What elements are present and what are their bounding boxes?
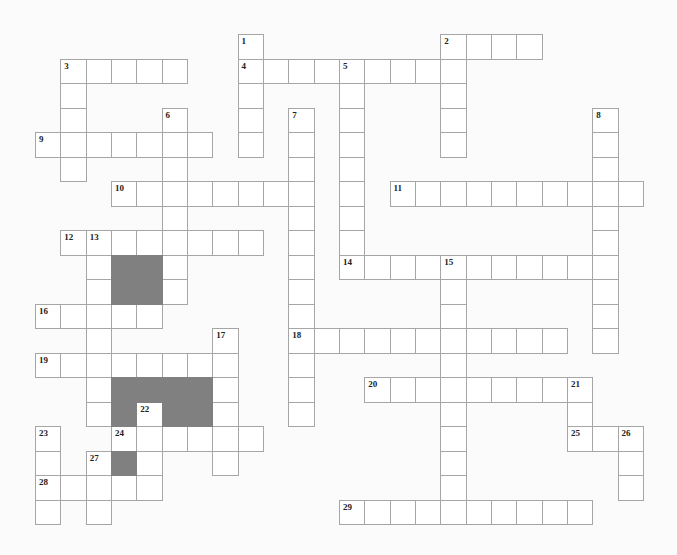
answer-cell[interactable] bbox=[288, 255, 314, 281]
answer-cell[interactable] bbox=[162, 157, 188, 183]
answer-cell[interactable] bbox=[136, 230, 162, 256]
answer-cell[interactable] bbox=[415, 377, 441, 403]
answer-cell[interactable] bbox=[288, 181, 314, 207]
answer-cell[interactable] bbox=[440, 304, 466, 330]
answer-cell[interactable] bbox=[288, 132, 314, 158]
answer-cell[interactable] bbox=[212, 353, 238, 379]
answer-cell[interactable]: 14 bbox=[339, 255, 365, 281]
answer-cell[interactable] bbox=[136, 132, 162, 158]
answer-cell[interactable] bbox=[466, 181, 492, 207]
answer-cell[interactable] bbox=[440, 377, 466, 403]
answer-cell[interactable] bbox=[212, 181, 238, 207]
answer-cell[interactable]: 4 bbox=[238, 59, 264, 85]
answer-cell[interactable] bbox=[60, 132, 86, 158]
answer-cell[interactable] bbox=[339, 83, 365, 109]
answer-cell[interactable] bbox=[466, 500, 492, 526]
answer-cell[interactable]: 6 bbox=[162, 108, 188, 134]
answer-cell[interactable] bbox=[60, 475, 86, 501]
answer-cell[interactable] bbox=[516, 181, 542, 207]
answer-cell[interactable] bbox=[187, 132, 213, 158]
answer-cell[interactable] bbox=[339, 230, 365, 256]
answer-cell[interactable] bbox=[86, 255, 112, 281]
answer-cell[interactable] bbox=[440, 59, 466, 85]
answer-cell[interactable]: 23 bbox=[35, 426, 61, 452]
answer-cell[interactable] bbox=[440, 108, 466, 134]
answer-cell[interactable] bbox=[390, 377, 416, 403]
answer-cell[interactable] bbox=[288, 353, 314, 379]
answer-cell[interactable] bbox=[212, 402, 238, 428]
answer-cell[interactable]: 11 bbox=[390, 181, 416, 207]
answer-cell[interactable] bbox=[86, 377, 112, 403]
answer-cell[interactable] bbox=[466, 255, 492, 281]
answer-cell[interactable] bbox=[86, 353, 112, 379]
answer-cell[interactable] bbox=[86, 279, 112, 305]
answer-cell[interactable] bbox=[339, 328, 365, 354]
answer-cell[interactable] bbox=[60, 108, 86, 134]
answer-cell[interactable] bbox=[364, 59, 390, 85]
answer-cell[interactable] bbox=[111, 132, 137, 158]
answer-cell[interactable] bbox=[60, 304, 86, 330]
answer-cell[interactable] bbox=[364, 328, 390, 354]
answer-cell[interactable]: 20 bbox=[364, 377, 390, 403]
answer-cell[interactable] bbox=[567, 402, 593, 428]
answer-cell[interactable] bbox=[288, 230, 314, 256]
answer-cell[interactable] bbox=[162, 230, 188, 256]
answer-cell[interactable] bbox=[491, 328, 517, 354]
answer-cell[interactable] bbox=[618, 475, 644, 501]
answer-cell[interactable] bbox=[288, 377, 314, 403]
answer-cell[interactable] bbox=[86, 402, 112, 428]
answer-cell[interactable] bbox=[86, 304, 112, 330]
answer-cell[interactable] bbox=[111, 304, 137, 330]
answer-cell[interactable] bbox=[212, 451, 238, 477]
answer-cell[interactable] bbox=[618, 181, 644, 207]
answer-cell[interactable] bbox=[415, 181, 441, 207]
answer-cell[interactable] bbox=[516, 328, 542, 354]
answer-cell[interactable]: 12 bbox=[60, 230, 86, 256]
answer-cell[interactable]: 18 bbox=[288, 328, 314, 354]
answer-cell[interactable] bbox=[288, 59, 314, 85]
answer-cell[interactable]: 16 bbox=[35, 304, 61, 330]
answer-cell[interactable] bbox=[440, 402, 466, 428]
answer-cell[interactable]: 24 bbox=[111, 426, 137, 452]
answer-cell[interactable] bbox=[466, 377, 492, 403]
answer-cell[interactable] bbox=[516, 255, 542, 281]
answer-cell[interactable] bbox=[60, 83, 86, 109]
answer-cell[interactable] bbox=[567, 500, 593, 526]
answer-cell[interactable]: 25 bbox=[567, 426, 593, 452]
answer-cell[interactable] bbox=[86, 475, 112, 501]
answer-cell[interactable] bbox=[35, 500, 61, 526]
answer-cell[interactable]: 1 bbox=[238, 34, 264, 60]
answer-cell[interactable] bbox=[35, 451, 61, 477]
answer-cell[interactable] bbox=[592, 255, 618, 281]
answer-cell[interactable] bbox=[288, 157, 314, 183]
answer-cell[interactable]: 5 bbox=[339, 59, 365, 85]
answer-cell[interactable] bbox=[136, 451, 162, 477]
answer-cell[interactable] bbox=[542, 255, 568, 281]
answer-cell[interactable] bbox=[415, 500, 441, 526]
answer-cell[interactable] bbox=[238, 230, 264, 256]
answer-cell[interactable] bbox=[364, 500, 390, 526]
answer-cell[interactable] bbox=[516, 377, 542, 403]
answer-cell[interactable] bbox=[440, 500, 466, 526]
answer-cell[interactable] bbox=[162, 59, 188, 85]
answer-cell[interactable]: 29 bbox=[339, 500, 365, 526]
answer-cell[interactable] bbox=[339, 157, 365, 183]
answer-cell[interactable]: 26 bbox=[618, 426, 644, 452]
answer-cell[interactable] bbox=[136, 304, 162, 330]
answer-cell[interactable] bbox=[136, 426, 162, 452]
answer-cell[interactable] bbox=[162, 132, 188, 158]
answer-cell[interactable] bbox=[440, 328, 466, 354]
answer-cell[interactable] bbox=[60, 157, 86, 183]
answer-cell[interactable] bbox=[162, 426, 188, 452]
answer-cell[interactable] bbox=[339, 181, 365, 207]
answer-cell[interactable] bbox=[592, 206, 618, 232]
answer-cell[interactable] bbox=[364, 255, 390, 281]
answer-cell[interactable] bbox=[542, 328, 568, 354]
answer-cell[interactable] bbox=[187, 230, 213, 256]
answer-cell[interactable] bbox=[491, 377, 517, 403]
answer-cell[interactable] bbox=[592, 426, 618, 452]
answer-cell[interactable] bbox=[288, 402, 314, 428]
answer-cell[interactable] bbox=[212, 377, 238, 403]
answer-cell[interactable] bbox=[86, 500, 112, 526]
answer-cell[interactable] bbox=[440, 181, 466, 207]
